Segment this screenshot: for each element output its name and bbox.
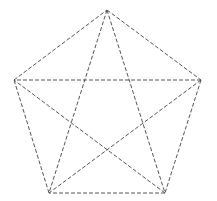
pentagon-star-diagram — [0, 0, 217, 201]
diagram-background — [0, 0, 217, 201]
